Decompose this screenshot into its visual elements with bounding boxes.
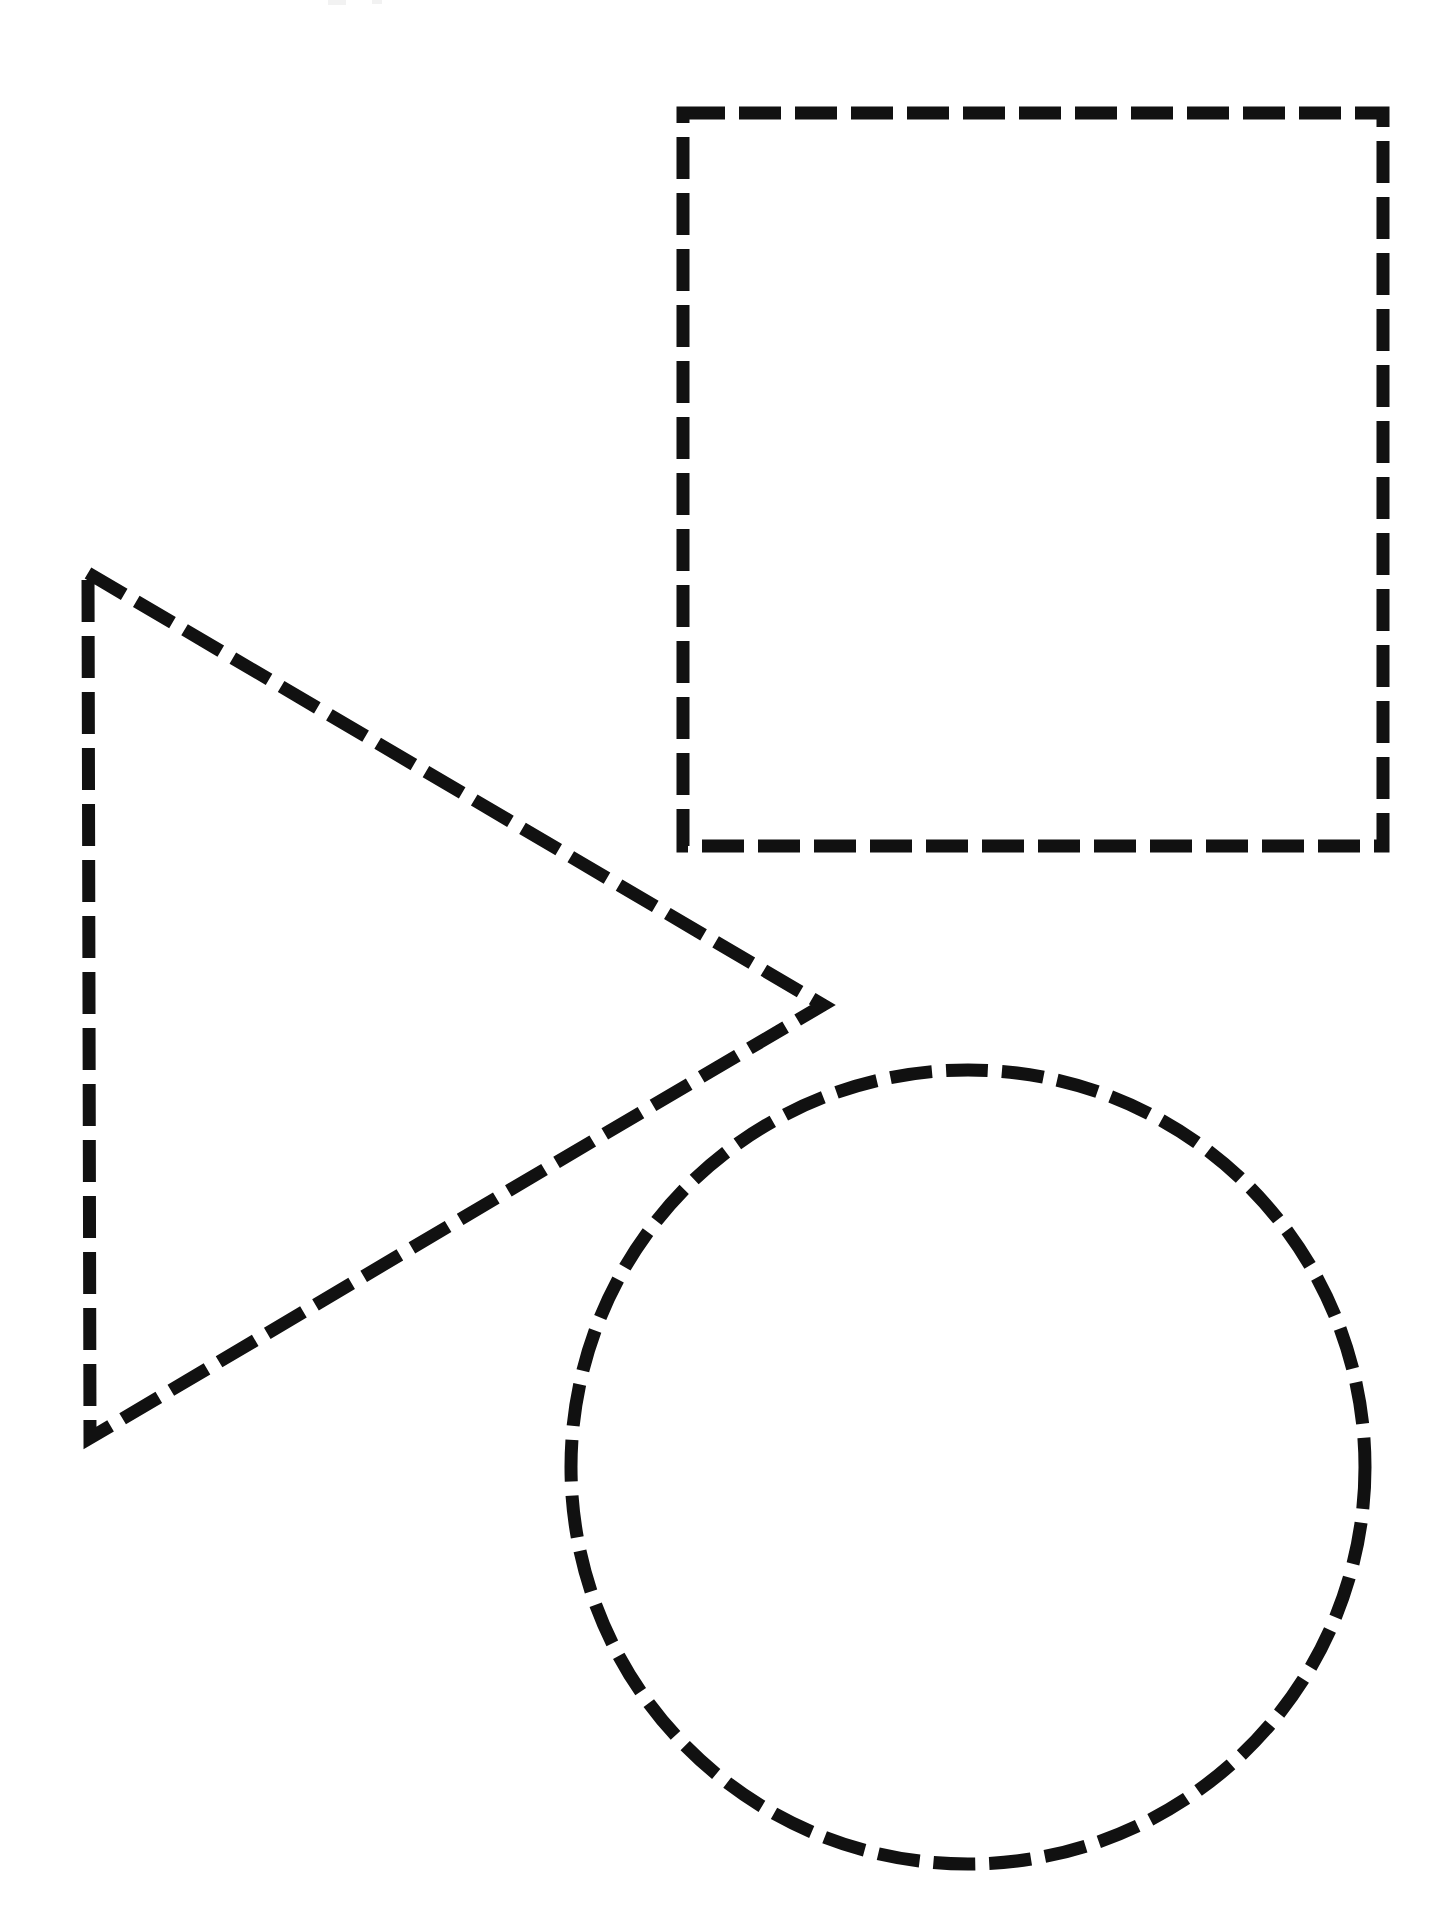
worksheet-page: [0, 0, 1450, 1928]
shapes-canvas: [0, 0, 1450, 1928]
dashed-triangle-shape: [88, 573, 823, 1438]
dashed-square-shape: [683, 113, 1383, 846]
dashed-circle-shape: [571, 1070, 1365, 1864]
